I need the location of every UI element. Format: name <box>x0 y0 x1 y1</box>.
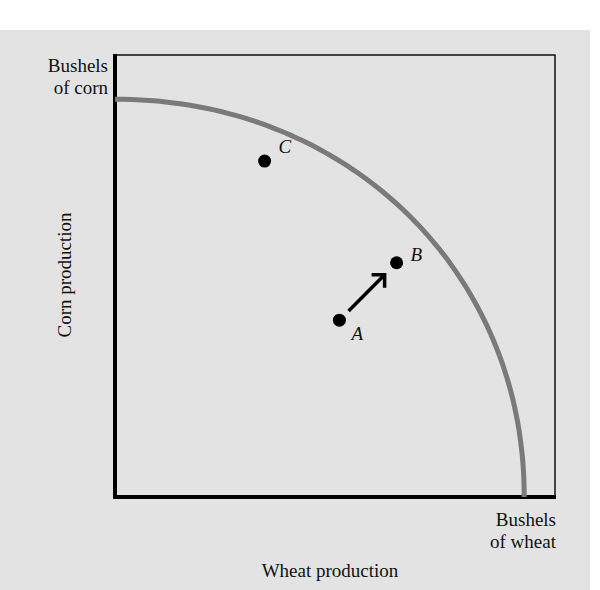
x-end-label-line2: of wheat <box>460 531 556 553</box>
y-end-label-line1: Bushels <box>30 55 108 77</box>
production-possibilities-curve <box>115 99 524 497</box>
point-label-c: C <box>279 136 292 157</box>
arrow-a-to-b <box>349 275 385 311</box>
arrow-shaft <box>349 275 385 311</box>
x-axis-end-label: Bushels of wheat <box>460 509 556 553</box>
x-axis-title: Wheat production <box>200 560 460 582</box>
point-label-b: B <box>411 244 423 265</box>
point-c <box>258 155 271 168</box>
axes-frame <box>115 55 555 497</box>
point-a <box>333 314 346 327</box>
point-label-a: A <box>349 323 363 344</box>
y-end-label-line2: of corn <box>30 77 108 99</box>
y-axis-end-label: Bushels of corn <box>30 55 108 99</box>
y-axis-title: Corn production <box>54 185 76 365</box>
x-end-label-line1: Bushels <box>460 509 556 531</box>
point-b <box>390 256 403 269</box>
